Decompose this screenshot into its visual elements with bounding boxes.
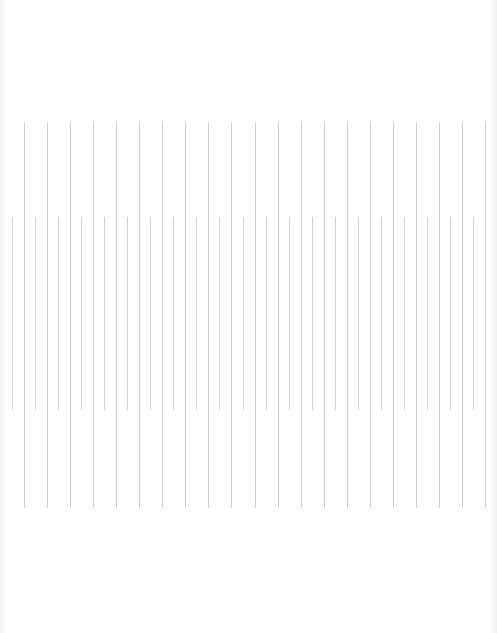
vertical-line [462,122,463,508]
vertical-line [289,217,290,410]
blank-page [0,0,497,633]
vertical-line [58,217,59,410]
vertical-line [324,122,325,508]
vertical-line [139,122,140,508]
vertical-line [393,122,394,508]
vertical-line [416,122,417,508]
vertical-line [173,217,174,410]
vertical-line [358,217,359,410]
vertical-line [219,217,220,410]
vertical-line [347,122,348,508]
vertical-line [381,217,382,410]
vertical-line [450,217,451,410]
right-page-edge-shadow [491,0,497,633]
vertical-line [266,217,267,410]
vertical-line [404,217,405,410]
vertical-line [12,217,13,410]
vertical-line [116,122,117,508]
vertical-line [208,122,209,508]
vertical-line [278,122,279,508]
vertical-line [162,122,163,508]
vertical-line [370,122,371,508]
vertical-line [255,122,256,508]
vertical-line [301,122,302,508]
vertical-line [243,217,244,410]
vertical-line [485,122,486,508]
vertical-line [473,217,474,410]
vertical-line [104,217,105,410]
vertical-line [93,122,94,508]
vertical-line [231,122,232,508]
vertical-line [81,217,82,410]
vertical-line [35,217,36,410]
vertical-line [427,217,428,410]
vertical-line [47,122,48,508]
vertical-line [150,217,151,410]
vertical-line [127,217,128,410]
vertical-line [439,122,440,508]
vertical-line [196,217,197,410]
vertical-line [185,122,186,508]
vertical-line [312,217,313,410]
vertical-line [335,217,336,410]
vertical-line [70,122,71,508]
vertical-line [24,122,25,508]
left-page-edge-shadow [0,0,6,633]
